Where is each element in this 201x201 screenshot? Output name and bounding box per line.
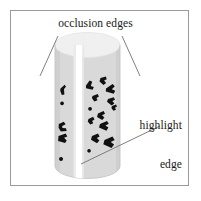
label-occlusion-edges: occlusion edges [0, 17, 191, 30]
cylinder-left-shading [55, 45, 60, 172]
label-highlight-edge-line1: highlight [108, 119, 182, 132]
texture-mark [60, 102, 64, 106]
label-highlight-edge-line2: edge [108, 158, 182, 171]
highlight-stripe-soft-edge [74, 45, 77, 180]
highlight-stripe [76, 45, 83, 180]
texture-mark [87, 149, 91, 153]
cylinder-top-cap [55, 33, 120, 58]
label-highlight-edge: highlight edge [108, 93, 182, 197]
highlight-stripe-soft-edge-right [83, 45, 85, 180]
figure-root: occlusion edges highlight edge [0, 0, 201, 201]
texture-mark [59, 157, 63, 161]
texture-mark [88, 107, 92, 111]
